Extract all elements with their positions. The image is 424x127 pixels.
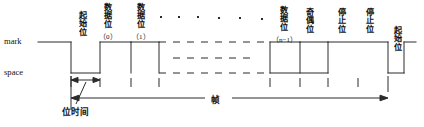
ellipsis-dot [160,16,162,18]
frame-label: 帧 [211,93,220,105]
bit-label-next-start-bit: 起始位 [393,26,401,51]
ellipsis-dot [218,17,220,19]
waveform-ellipsis-dashed [159,42,270,73]
bit-boundary-ticks [71,76,388,92]
mark-level-label: mark [4,36,22,46]
bit-sub-data-bit-0: （0） [99,31,117,41]
ellipsis-dot [261,18,263,20]
space-level-label: space [4,67,23,77]
bit-sub-data-bit-1: （1） [132,31,150,41]
frame-dimension [71,76,388,110]
ellipsis-dot [239,17,241,19]
ellipsis-dot [197,16,199,18]
bit-label-data-bit-1: 数据位 [136,3,144,28]
bit-label-start-bit: 起始位 [78,11,86,36]
bit-time-arrow-head-left [71,77,78,82]
bit-sub-data-bit-n-1: （n−1） [272,34,297,44]
serial-frame-timing-figure: mark space 起始位 数据位 （0） 数据位 （1） 数据位 （n−1）… [0,0,424,127]
ellipsis-dots-row [160,14,270,22]
bit-label-stop-bit-1: 停止位 [337,8,345,33]
frame-arrow-head-left [71,95,79,101]
bit-label-parity-bit: 奇偶位 [305,8,313,33]
bit-time-label: 位时间 [62,105,89,117]
bit-label-stop-bit-2: 停止位 [365,8,373,33]
ellipsis-dot [178,16,180,18]
frame-arrow-head-right [380,95,388,101]
bit-time-arrow-head-right [93,77,100,82]
bit-label-data-bit-n-1: 数据位 [279,6,287,31]
bit-label-data-bit-0: 数据位 [103,3,111,28]
waveform-trace [38,42,416,73]
